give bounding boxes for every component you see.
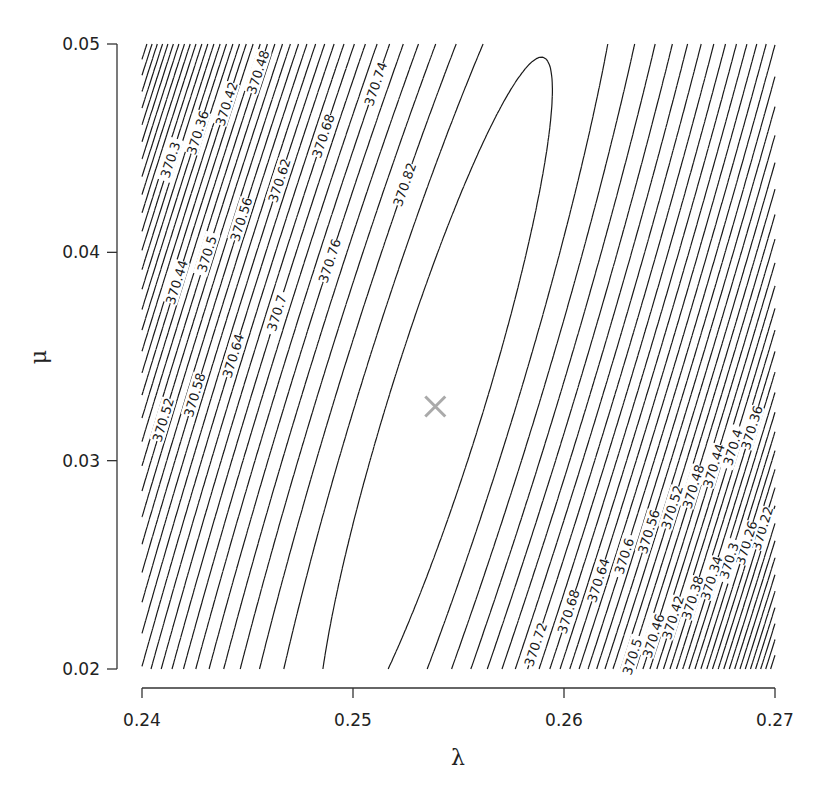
contour-label: 370.72 [521,620,550,668]
y-tick-label: 0.02 [62,659,100,679]
contour-label: 370.7 [264,293,289,333]
contour-label: 370.3 [158,140,184,180]
contour-line [771,655,775,669]
x-tick-label: 0.26 [545,710,583,730]
contour-plot: 370.22370.26370.3370.3370.34370.36370.36… [0,0,824,793]
x-tick-label: 0.25 [334,710,372,730]
y-axis-ticks: 0.020.030.040.05 [62,34,117,679]
contour-label: 370.56 [635,508,663,556]
contour-line [172,44,726,669]
contour-label: 370.58 [181,371,209,419]
contour-label: 370.42 [213,80,241,128]
maximum-cross-marker [425,397,445,417]
x-axis: 0.240.250.260.27 [123,688,794,730]
x-tick-label: 0.24 [123,710,161,730]
y-axis-title: μ [26,350,51,364]
contour-label: 370.44 [163,258,191,306]
contour-label: 370.5 [194,234,219,274]
y-tick-label: 0.04 [62,242,100,262]
contour-line [766,640,775,670]
y-tick-label: 0.03 [62,451,100,471]
y-tick-label: 0.05 [62,34,100,54]
x-axis-title: λ [451,745,465,770]
contour-label: 370.74 [361,60,390,108]
contour-line [284,44,608,669]
contour-label: 370.36 [184,109,212,157]
x-tick-label: 0.27 [756,710,794,730]
max-cross-icon [425,397,445,417]
y-axis: 0.020.030.040.05 [62,34,117,679]
contour-label: 370.76 [316,237,344,285]
contour-label: 370.82 [390,161,419,209]
contour-labels: 370.22370.26370.3370.3370.34370.36370.36… [149,48,776,680]
x-axis-ticks: 0.240.250.260.27 [123,688,794,730]
